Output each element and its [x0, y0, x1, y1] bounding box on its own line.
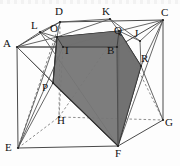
vertex-label-A: A: [3, 38, 11, 49]
vertex-label-O: O: [50, 23, 58, 34]
vertex-label-P: P: [42, 82, 48, 93]
vertex-label-I: I: [65, 45, 69, 56]
point-D: [59, 21, 61, 23]
point-R: [140, 65, 142, 67]
edge-A-E: [17, 47, 18, 148]
point-K: [109, 18, 111, 20]
vertex-label-J: J: [134, 28, 138, 39]
vertex-label-R: R: [141, 53, 148, 64]
vertex-label-Q: Q: [114, 25, 122, 36]
vertex-label-C: C: [161, 7, 168, 18]
vertex-label-K: K: [102, 6, 110, 17]
line-A-O: [17, 37, 57, 47]
point-J: [139, 40, 141, 42]
point-I: [62, 46, 64, 48]
edge-E-F: [18, 146, 118, 148]
vertex-label-B: B: [107, 45, 114, 56]
point-C: [162, 19, 164, 21]
edge-E-H: [18, 117, 59, 148]
line-A-L: [17, 32, 40, 47]
point-P: [52, 82, 54, 84]
shaded-facet-right-wedge: [117, 31, 141, 146]
vertex-label-H: H: [57, 115, 65, 126]
vertex-label-D: D: [55, 6, 63, 17]
vertex-label-L: L: [31, 20, 38, 31]
vertex-label-G: G: [165, 117, 173, 128]
point-O: [56, 36, 58, 38]
cube-drawing: [0, 0, 180, 166]
line-R-G: [141, 66, 163, 120]
point-E: [17, 147, 19, 149]
point-G: [162, 119, 164, 121]
point-B: [116, 46, 118, 48]
geometry-figure: A B C D E F G H I J K L O P Q R: [0, 0, 180, 166]
vertex-label-F: F: [115, 148, 121, 159]
point-A: [16, 46, 18, 48]
point-L: [39, 31, 41, 33]
vertex-label-E: E: [5, 142, 12, 153]
